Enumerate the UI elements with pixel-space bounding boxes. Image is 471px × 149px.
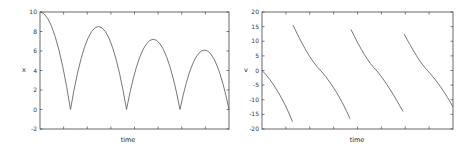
y-tick-label: 20 — [251, 8, 259, 15]
left-x-ticks — [64, 12, 206, 129]
velocity-segment-2 — [293, 25, 350, 119]
right-y-ticks: 20151050-5-10-15-20 — [249, 8, 453, 132]
right-x-ticks — [286, 12, 429, 129]
velocity-segment-4 — [404, 34, 453, 107]
y-tick-label: -5 — [253, 81, 259, 88]
left-x-axis-label: time — [121, 136, 136, 144]
right-x-axis-label: time — [350, 136, 365, 144]
left-plot-frame — [40, 12, 229, 129]
y-tick-label: 5 — [255, 52, 259, 59]
y-tick-label: -2 — [31, 125, 37, 132]
y-tick-label: 10 — [29, 8, 37, 15]
y-tick-label: 10 — [251, 37, 259, 44]
left-plot: 1086420-2 x time — [22, 8, 229, 144]
y-tick-label: 2 — [33, 86, 37, 93]
left-y-axis-label: x — [22, 66, 26, 74]
y-tick-label: 0 — [255, 67, 259, 74]
velocity-segment-3 — [351, 30, 403, 112]
left-y-ticks: 1086420-2 — [29, 8, 229, 132]
right-plot: 20151050-5-10-15-20 v time — [244, 8, 453, 144]
velocity-segment-1 — [262, 71, 293, 122]
y-tick-label: 15 — [251, 23, 259, 30]
y-tick-label: 0 — [33, 106, 37, 113]
y-tick-label: 4 — [33, 67, 37, 74]
y-tick-label: -10 — [249, 96, 259, 103]
y-tick-label: -20 — [249, 125, 259, 132]
position-curve — [40, 12, 229, 110]
y-tick-label: 8 — [33, 28, 37, 35]
y-tick-label: -15 — [249, 110, 259, 117]
figure: 1086420-2 x time 20151050-5-10-15-20 v t… — [0, 0, 471, 149]
right-plot-frame — [262, 12, 453, 129]
y-tick-label: 6 — [33, 47, 37, 54]
right-y-axis-label: v — [244, 66, 248, 74]
